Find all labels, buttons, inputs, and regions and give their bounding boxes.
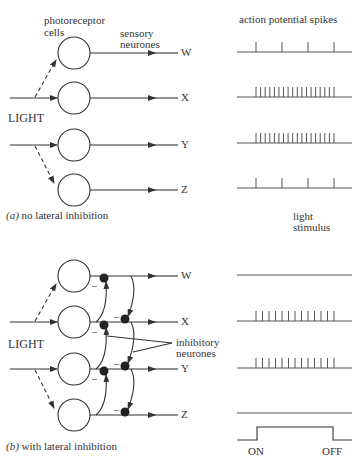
light-label-a: LIGHT xyxy=(8,113,44,124)
photoreceptor-cell-w xyxy=(58,260,90,292)
synapse-w-lower xyxy=(100,274,109,283)
trace-b-x-spikes xyxy=(256,311,334,321)
stimulus-off-label: OFF xyxy=(322,446,342,457)
photoreceptor-cell-z xyxy=(58,399,90,431)
synapse-z-upper xyxy=(121,408,130,417)
light-label-b: LIGHT xyxy=(8,339,44,350)
inhibition-sign: – xyxy=(114,311,119,322)
light-scatter-z xyxy=(35,370,54,408)
caption-a-tag: (a) xyxy=(6,209,19,221)
output-label-w: W xyxy=(181,46,191,58)
trace-a-z-spikes xyxy=(256,178,334,188)
inhibition-sign: – xyxy=(92,373,97,384)
panel-b-spike-traces xyxy=(237,275,352,413)
photoreceptor-cell-x xyxy=(58,306,90,338)
light-scatter-w xyxy=(35,284,56,321)
photoreceptor-cell-y xyxy=(58,353,90,385)
photoreceptor-label-line2: cells xyxy=(44,27,64,38)
synapse-x-lower xyxy=(100,321,109,330)
trace-a-w-spikes xyxy=(256,42,334,52)
output-label-x: X xyxy=(181,91,189,103)
inhibitory-neurone-x-to-w xyxy=(96,282,106,322)
caption-b: (b) with lateral inhibition xyxy=(6,440,117,452)
trace-b-y-spikes xyxy=(256,358,334,368)
photoreceptor-cell-w xyxy=(58,37,90,69)
output-label-y: Y xyxy=(181,138,189,150)
photoreceptor-cell-x xyxy=(58,82,90,114)
inhibitory-label-pointer-1 xyxy=(107,336,172,343)
caption-a-text: no lateral inhibition xyxy=(22,209,109,221)
inhibitory-neurone-w-to-x xyxy=(128,276,134,316)
inhibitory-neurone-x-to-y xyxy=(128,322,134,363)
inhibition-sign: – xyxy=(114,404,119,415)
light-scatter-z xyxy=(35,146,54,183)
synapse-y-upper xyxy=(121,362,130,371)
photoreceptor-cell-z xyxy=(58,174,90,206)
inhibition-sign: – xyxy=(92,280,97,291)
caption-b-text: with lateral inhibition xyxy=(22,440,117,452)
caption-a: (a) no lateral inhibition xyxy=(6,209,108,221)
inhibition-sign: – xyxy=(114,358,119,369)
output-label-z: Z xyxy=(181,408,188,420)
stimulus-on-label: ON xyxy=(248,446,264,457)
photoreceptor-label-line1: photoreceptor xyxy=(44,15,105,26)
inhibitory-neurone-z-to-y xyxy=(96,375,106,415)
trace-a-y-spikes xyxy=(256,133,334,143)
caption-b-tag: (b) xyxy=(6,440,19,452)
inhibitory-neurone-y-to-x xyxy=(96,328,106,369)
sensory-label-line2: neurones xyxy=(120,39,160,50)
output-label-y: Y xyxy=(181,362,189,374)
inhibitory-label-pointer-2 xyxy=(133,343,172,352)
inhibitory-neurone-y-to-z xyxy=(128,369,134,409)
synapse-x-upper xyxy=(121,315,130,324)
panel-a-spike-traces xyxy=(237,42,352,188)
inhibitory-synapses xyxy=(100,274,130,417)
inhibitory-label-line2: neurones xyxy=(176,348,216,359)
trace-a-x-spikes xyxy=(256,87,334,97)
output-label-z: Z xyxy=(181,183,188,195)
output-label-x: X xyxy=(181,315,189,327)
light-stimulus-label-line2: stimulus xyxy=(293,222,330,233)
light-stimulus-trace xyxy=(237,427,352,440)
synapse-y-lower xyxy=(100,367,109,376)
inhibition-sign: – xyxy=(92,326,97,337)
output-label-w: W xyxy=(181,269,191,281)
spike-title: action potential spikes xyxy=(239,14,337,25)
photoreceptor-cell-y xyxy=(58,129,90,161)
light-scatter-w xyxy=(35,60,56,97)
